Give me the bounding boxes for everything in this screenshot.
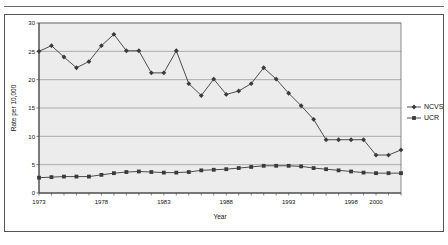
datapoint-UCR-1981 [137, 170, 141, 174]
datapoint-UCR-1986 [199, 168, 203, 172]
datapoint-UCR-1983 [162, 171, 166, 175]
datapoint-UCR-1991 [262, 164, 266, 168]
datapoint-UCR-1974 [50, 175, 54, 179]
chart-frame: 0510152025301973197819831988199319982000… [4, 14, 444, 232]
datapoint-UCR-1998 [349, 170, 353, 174]
legend-label-NCVS[interactable]: NCVS [424, 103, 443, 110]
x-tick-label-1983: 1983 [157, 199, 171, 205]
datapoint-UCR-2001 [387, 171, 391, 175]
datapoint-UCR-1973 [37, 176, 41, 180]
y-tick-label-25: 25 [28, 49, 35, 55]
datapoint-UCR-1994 [299, 164, 303, 168]
datapoint-UCR-2002 [399, 171, 403, 175]
y-tick-label-30: 30 [28, 20, 35, 26]
datapoint-UCR-2000 [374, 171, 378, 175]
x-tick-label-1973: 1973 [32, 199, 46, 205]
y-tick-label-0: 0 [32, 190, 36, 196]
datapoint-UCR-1989 [237, 166, 241, 170]
datapoint-UCR-1976 [75, 175, 79, 179]
y-tick-label-5: 5 [32, 162, 36, 168]
y-tick-label-15: 15 [28, 105, 35, 111]
datapoint-UCR-1995 [312, 166, 316, 170]
datapoint-UCR-1996 [324, 167, 328, 171]
datapoint-UCR-1992 [274, 164, 278, 168]
top-divider-rule [4, 6, 444, 7]
datapoint-UCR-1975 [62, 175, 66, 179]
datapoint-UCR-1988 [224, 167, 228, 171]
datapoint-UCR-1993 [287, 164, 291, 168]
datapoint-UCR-1980 [124, 170, 128, 174]
legend-marker-UCR [412, 116, 416, 120]
chart-legend: NCVSUCR [407, 103, 443, 121]
datapoint-UCR-1979 [112, 171, 116, 175]
datapoint-UCR-1982 [149, 170, 153, 174]
datapoint-UCR-1990 [249, 165, 253, 169]
y-axis-title: Rate per 10,000 [10, 84, 18, 131]
datapoint-UCR-1987 [212, 168, 216, 172]
chart-figure: 0510152025301973197819831988199319982000… [0, 0, 448, 245]
legend-marker-NCVS [412, 105, 417, 110]
x-tick-label-1978: 1978 [95, 199, 109, 205]
datapoint-UCR-1977 [87, 175, 91, 179]
datapoint-UCR-1999 [362, 171, 366, 175]
legend-label-UCR[interactable]: UCR [424, 114, 439, 121]
x-tick-label-1988: 1988 [220, 199, 234, 205]
datapoint-UCR-1978 [100, 173, 104, 177]
datapoint-UCR-1984 [174, 171, 178, 175]
datapoint-UCR-1985 [187, 170, 191, 174]
datapoint-UCR-1997 [337, 168, 341, 172]
line-chart-plot: 0510152025301973197819831988199319982000… [5, 15, 443, 231]
x-axis-title: Year [213, 213, 227, 220]
y-tick-label-20: 20 [28, 77, 35, 83]
x-tick-label-2000: 2000 [369, 199, 383, 205]
x-tick-label-1993: 1993 [282, 199, 296, 205]
y-tick-label-10: 10 [28, 134, 35, 140]
x-tick-label-1998: 1998 [344, 199, 358, 205]
